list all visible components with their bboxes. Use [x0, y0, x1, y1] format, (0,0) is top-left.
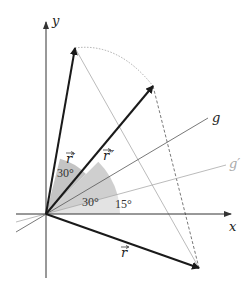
vector-r-prime-label: r′ [66, 151, 75, 166]
x-axis-label: x [229, 219, 237, 234]
line-g-label: g [212, 110, 220, 125]
rotation-arc [75, 47, 153, 86]
construction-dashed-r-double-prime-to-r [153, 86, 199, 268]
y-axis-label: y [51, 13, 60, 28]
rotation-diagram: y x g g′ r′ r″ r 30° 30° 15° [0, 0, 251, 295]
angle-label-30-lower: 30° [82, 195, 99, 209]
line-g-prime-label: g′ [229, 156, 240, 171]
vector-r-double-prime-label: r″ [103, 148, 114, 163]
angle-label-15: 15° [115, 197, 132, 211]
angle-label-30-upper: 30° [57, 166, 74, 180]
vector-r-label: r [121, 245, 129, 260]
